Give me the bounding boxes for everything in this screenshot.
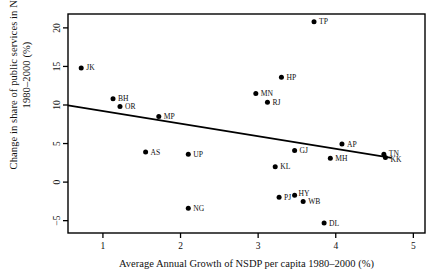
y-axis-title: Change in share of public services in NS… — [7, 0, 33, 200]
data-point: DL — [322, 219, 340, 228]
point-label: KL — [280, 162, 290, 171]
data-points: JKBHORMPASUPNGMNRJHPTPGJKLPJHYWBMHAPDLTN… — [79, 17, 402, 228]
data-point: UP — [186, 150, 203, 159]
point-label: OR — [125, 102, 136, 111]
point-label: NG — [193, 204, 204, 213]
point-marker — [328, 156, 333, 161]
data-point: OR — [117, 102, 136, 111]
point-label: MP — [164, 112, 175, 121]
point-marker — [279, 75, 284, 80]
point-label: HP — [286, 73, 296, 82]
x-tick-label: 2 — [178, 241, 183, 251]
y-tick-label: 10 — [52, 100, 62, 110]
point-marker — [111, 96, 116, 101]
data-point: PJ — [277, 193, 292, 202]
data-point: AS — [143, 148, 160, 157]
point-label: WB — [308, 197, 320, 206]
point-marker — [292, 193, 297, 198]
y-axis-title-line-1: Change in share of public services in NS… — [7, 0, 20, 200]
x-tick-label: 4 — [333, 241, 338, 251]
point-label: AS — [151, 148, 161, 157]
y-tick-label: 20 — [52, 23, 62, 33]
point-marker — [143, 150, 148, 155]
point-marker — [117, 104, 122, 109]
regression-line — [68, 105, 392, 157]
point-marker — [383, 155, 388, 160]
point-marker — [186, 152, 191, 157]
point-marker — [277, 195, 282, 200]
data-point: MH — [328, 154, 348, 163]
data-point: KL — [273, 162, 291, 171]
data-point: MN — [253, 89, 273, 98]
point-marker — [273, 164, 278, 169]
point-label: AP — [347, 140, 357, 149]
point-label: JK — [86, 63, 95, 72]
point-marker — [156, 114, 161, 119]
point-label: GJ — [300, 146, 308, 155]
data-point: AP — [339, 140, 356, 149]
data-point: TP — [312, 17, 328, 26]
y-axis-ticks: −505101520 — [52, 23, 68, 226]
x-axis-ticks: 12345 — [101, 233, 416, 251]
point-label: RJ — [272, 98, 280, 107]
plot-canvas: 12345 −505101520 JKBHORMPASUPNGMNRJHPTPG… — [0, 0, 441, 279]
point-label: KK — [390, 155, 401, 164]
data-point: NG — [186, 204, 205, 213]
data-point: HP — [279, 73, 296, 82]
y-tick-label: 15 — [52, 61, 62, 71]
point-label: UP — [193, 150, 203, 159]
data-point: KK — [383, 155, 402, 164]
data-point: JK — [79, 63, 95, 72]
data-point: RJ — [265, 98, 281, 107]
scatter-plot-figure: Change in share of public services in NS… — [0, 0, 441, 279]
point-label: MH — [335, 154, 348, 163]
point-marker — [301, 199, 306, 204]
y-tick-label: 0 — [52, 179, 62, 184]
point-marker — [339, 141, 344, 146]
point-marker — [253, 91, 258, 96]
point-marker — [79, 65, 84, 70]
plot-frame — [68, 14, 425, 233]
x-tick-label: 3 — [256, 241, 261, 251]
point-label: TP — [319, 17, 328, 26]
plot-border — [68, 14, 425, 233]
point-label: DL — [329, 219, 339, 228]
point-marker — [312, 19, 317, 24]
point-marker — [186, 206, 191, 211]
data-point: WB — [301, 197, 321, 206]
x-axis-title: Average Annual Growth of NSDP per capita… — [68, 258, 425, 269]
point-marker — [322, 220, 327, 225]
x-tick-label: 5 — [411, 241, 416, 251]
data-point: GJ — [292, 146, 308, 155]
point-label: PJ — [284, 193, 291, 202]
x-tick-label: 1 — [101, 241, 106, 251]
y-tick-label: 5 — [52, 141, 62, 146]
y-axis-title-line-2: 1980–2000 (%) — [20, 0, 33, 200]
point-marker — [265, 100, 270, 105]
trend-line — [68, 105, 392, 157]
point-marker — [292, 148, 297, 153]
point-label: MN — [261, 89, 274, 98]
y-tick-label: −5 — [52, 215, 62, 225]
